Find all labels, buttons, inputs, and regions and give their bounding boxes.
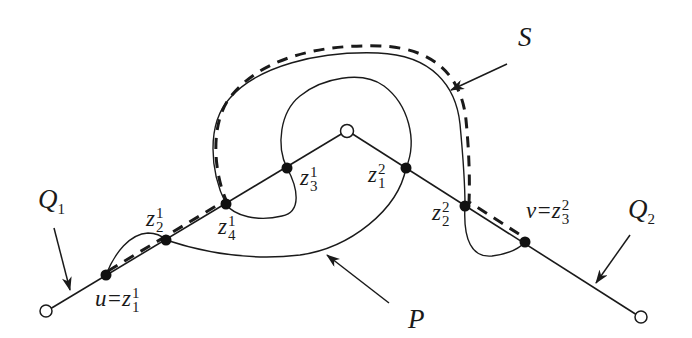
arrow-Q2 bbox=[596, 235, 630, 283]
small-loop-u bbox=[106, 233, 166, 275]
segment-right bbox=[351, 133, 637, 315]
label-z22-sup: 2 bbox=[442, 200, 450, 214]
label-z21-sup: 1 bbox=[156, 206, 164, 220]
node-v bbox=[520, 237, 531, 248]
label-z21-sub: 2 bbox=[156, 220, 164, 234]
node-apex bbox=[341, 125, 354, 138]
label-z31: z13 bbox=[300, 165, 317, 194]
label-z22-base: z bbox=[432, 200, 441, 225]
node-z31 bbox=[282, 163, 293, 174]
label-Q1-base: Q bbox=[38, 184, 58, 214]
arrow-P bbox=[327, 255, 389, 303]
label-z41: z14 bbox=[218, 214, 235, 243]
label-z21-base: z bbox=[146, 206, 155, 231]
label-Q1-sub: 1 bbox=[58, 201, 66, 217]
node-z41 bbox=[221, 199, 232, 210]
label-z12-sub: 1 bbox=[378, 176, 386, 190]
label-P: P bbox=[408, 306, 425, 333]
label-z22-sub: 2 bbox=[442, 214, 450, 228]
arrow-Q1 bbox=[54, 228, 70, 290]
label-z31-sup: 1 bbox=[310, 165, 318, 179]
node-right-end bbox=[635, 311, 647, 323]
label-v-sub: 3 bbox=[562, 212, 570, 226]
label-z22: z22 bbox=[432, 200, 449, 229]
node-z12 bbox=[401, 163, 412, 174]
node-z22 bbox=[460, 201, 471, 212]
node-u bbox=[101, 270, 112, 281]
label-z31-base: z bbox=[300, 165, 309, 190]
label-z12-sup: 2 bbox=[378, 162, 386, 176]
label-z12-base: z bbox=[368, 162, 377, 187]
inner-loop bbox=[281, 77, 411, 168]
label-Q1: Q1 bbox=[38, 186, 65, 217]
label-v-sup: 2 bbox=[562, 198, 570, 212]
label-u: u=z11 bbox=[95, 286, 139, 315]
label-z41-base: z bbox=[218, 214, 227, 239]
label-Q2-sub: 2 bbox=[648, 211, 656, 227]
label-u-sup: 1 bbox=[132, 286, 140, 300]
arrow-S bbox=[451, 64, 507, 90]
small-loop-z31 bbox=[226, 168, 296, 218]
label-S: S bbox=[518, 24, 532, 51]
label-Q2: Q2 bbox=[628, 196, 655, 227]
label-z21: z12 bbox=[146, 206, 163, 235]
label-v: v=z23 bbox=[526, 198, 569, 227]
node-left-end bbox=[40, 305, 52, 317]
label-u-prefix: u=z bbox=[95, 286, 131, 311]
segment-left bbox=[50, 133, 343, 309]
label-v-prefix: v=z bbox=[526, 198, 561, 223]
label-z12: z21 bbox=[368, 162, 385, 191]
label-z31-sub: 3 bbox=[310, 179, 318, 193]
label-z41-sub: 4 bbox=[228, 228, 236, 242]
label-u-sub: 1 bbox=[132, 300, 140, 314]
node-z21 bbox=[161, 235, 172, 246]
label-z41-sup: 1 bbox=[228, 214, 236, 228]
label-Q2-base: Q bbox=[628, 194, 648, 224]
